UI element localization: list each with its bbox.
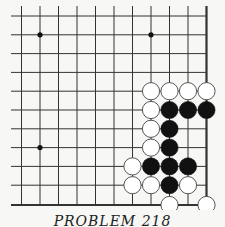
problem-caption: PROBLEM 218: [0, 213, 225, 227]
stones: [124, 83, 215, 210]
white-stone: [198, 83, 215, 100]
white-stone: [142, 139, 159, 156]
white-stone: [142, 120, 159, 137]
white-stone: [161, 196, 178, 210]
black-stone: [142, 158, 159, 175]
black-stone: [198, 101, 215, 118]
black-stone: [161, 158, 178, 175]
black-stone: [161, 177, 178, 194]
white-stone: [179, 177, 196, 194]
black-stone: [161, 101, 178, 118]
black-stone: [161, 139, 178, 156]
white-stone: [124, 158, 141, 175]
white-stone: [142, 177, 159, 194]
go-board: [0, 0, 225, 210]
white-stone: [161, 83, 178, 100]
white-stone: [198, 196, 215, 210]
black-stone: [179, 101, 196, 118]
star-point: [37, 32, 42, 37]
black-stone: [179, 158, 196, 175]
star-point: [148, 32, 153, 37]
black-stone: [161, 120, 178, 137]
star-point: [37, 145, 42, 150]
white-stone: [142, 83, 159, 100]
white-stone: [124, 177, 141, 194]
white-stone: [142, 101, 159, 118]
white-stone: [179, 83, 196, 100]
